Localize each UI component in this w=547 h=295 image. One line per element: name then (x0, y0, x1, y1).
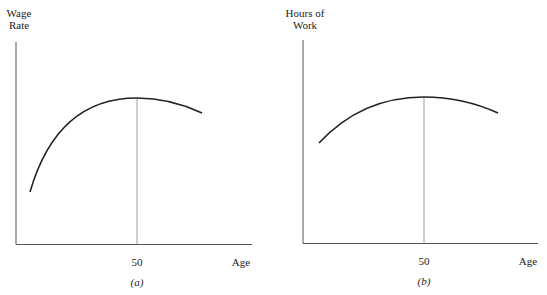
wage-curve (30, 98, 202, 192)
y-label-a-line2: Rate (4, 19, 34, 31)
caption-a: (a) (126, 276, 148, 288)
y-label-b-line2: Work (282, 19, 328, 31)
x-tick-b: 50 (414, 255, 434, 267)
hours-curve (319, 97, 498, 143)
chart-b (303, 40, 538, 244)
x-label-b: Age (515, 255, 541, 267)
y-label-b: Hours of Work (282, 7, 328, 31)
chart-a (16, 42, 252, 245)
y-label-a-line1: Wage (4, 7, 34, 19)
caption-b: (b) (413, 275, 435, 287)
y-label-b-line1: Hours of (282, 7, 328, 19)
charts-canvas (0, 0, 547, 295)
x-tick-a: 50 (127, 256, 147, 268)
x-label-a: Age (228, 256, 254, 268)
y-label-a: Wage Rate (4, 7, 34, 31)
